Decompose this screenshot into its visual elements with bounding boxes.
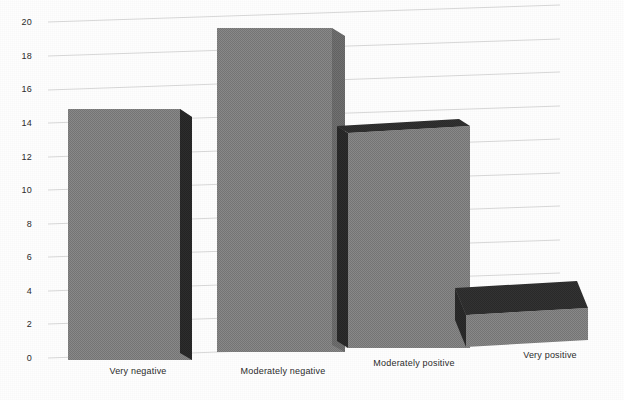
y-tick-2: 2 (6, 319, 32, 329)
y-tick-16: 16 (6, 84, 32, 94)
bar-very-positive (455, 281, 588, 347)
x-tick-very-negative: Very negative (78, 366, 198, 376)
y-tick-6: 6 (6, 252, 32, 262)
y-tick-0: 0 (6, 353, 32, 363)
y-tick-14: 14 (6, 118, 32, 128)
y-tick-18: 18 (6, 51, 32, 61)
y-tick-4: 4 (6, 286, 32, 296)
x-tick-very-positive: Very positive (495, 350, 605, 360)
x-tick-moderately-negative: Moderately negative (213, 366, 353, 376)
y-tick-12: 12 (6, 152, 32, 162)
y-tick-10: 10 (6, 185, 32, 195)
bar-very-negative (68, 109, 192, 360)
bar-chart: 20 18 16 14 12 10 8 6 4 2 0 Very negativ… (0, 0, 624, 400)
bar-moderately-negative (217, 28, 345, 352)
chart-canvas (0, 0, 624, 400)
y-tick-20: 20 (6, 17, 32, 27)
x-tick-moderately-positive: Moderately positive (344, 358, 484, 368)
bar-moderately-positive (337, 119, 470, 348)
y-tick-8: 8 (6, 219, 32, 229)
bar-series (68, 28, 588, 360)
